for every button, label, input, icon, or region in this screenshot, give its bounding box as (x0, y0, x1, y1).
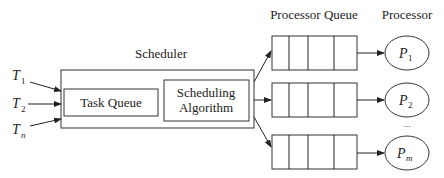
svg-text:P: P (398, 46, 408, 61)
svg-text:T: T (12, 122, 21, 137)
svg-text:2: 2 (408, 100, 413, 110)
svg-text:P: P (396, 146, 406, 161)
svg-text:P: P (398, 93, 408, 108)
processor-queue-m (272, 135, 357, 169)
processor-header: Processor (382, 7, 433, 22)
processor-queue-2 (272, 83, 357, 117)
svg-text:n: n (21, 130, 26, 140)
svg-text:1: 1 (408, 53, 413, 63)
arrow-scheduler-to-queue-1 (254, 51, 271, 82)
processor-queue-header: Processor Queue (270, 7, 358, 22)
processor-ellipsis: ... (404, 119, 411, 129)
arrow-t1-to-scheduler (30, 82, 61, 91)
scheduling-algorithm-label-2: Algorithm (179, 100, 233, 115)
svg-text:T: T (12, 96, 21, 111)
processor-p1: P 1 (385, 36, 429, 70)
processor-p2: P 2 (385, 83, 429, 117)
arrow-tn-to-scheduler (30, 119, 61, 126)
task-t1: T 1 (12, 68, 26, 86)
arrow-scheduler-to-queue-m (254, 117, 271, 147)
task-t2: T 2 (12, 96, 26, 114)
task-tn: T n (12, 122, 26, 140)
processor-queue-1 (272, 36, 357, 70)
scheduler-diagram: T 1 T 2 T n Scheduler Task Queue Schedul… (0, 0, 444, 178)
svg-text:m: m (406, 153, 413, 163)
task-queue-label: Task Queue (80, 95, 142, 110)
scheduling-algorithm-label-1: Scheduling (177, 85, 236, 100)
svg-text:2: 2 (21, 104, 26, 114)
processor-pm: P m (385, 136, 429, 170)
svg-text:T: T (12, 68, 21, 83)
svg-text:1: 1 (21, 76, 26, 86)
scheduler-title: Scheduler (135, 46, 188, 61)
